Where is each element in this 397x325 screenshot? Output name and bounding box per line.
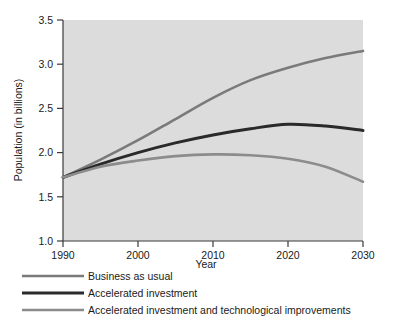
y-tick-label: 2.5 — [38, 102, 53, 114]
y-tick-label: 3.5 — [38, 14, 53, 26]
chart-canvas: 1.01.52.02.53.03.5 Population (in billio… — [0, 0, 397, 325]
legend-label: Business as usual — [88, 270, 173, 282]
x-tick-label: 1990 — [51, 249, 75, 261]
y-tick-label: 1.5 — [38, 191, 53, 203]
population-projection-chart: 1.01.52.02.53.03.5 Population (in billio… — [0, 0, 397, 325]
x-tick-label: 2030 — [351, 249, 375, 261]
y-tick-label: 1.0 — [38, 235, 53, 247]
y-axis-title: Population (in billions) — [12, 79, 24, 182]
y-tick-label: 3.0 — [38, 58, 53, 70]
plot-area-background — [63, 20, 363, 241]
legend-label: Accelerated investment — [88, 287, 197, 299]
x-tick-label: 2000 — [126, 249, 150, 261]
x-tick-label: 2020 — [276, 249, 300, 261]
y-tick-label: 2.0 — [38, 146, 53, 158]
x-axis-title: Year — [195, 258, 217, 270]
legend-label: Accelerated investment and technological… — [88, 304, 351, 316]
